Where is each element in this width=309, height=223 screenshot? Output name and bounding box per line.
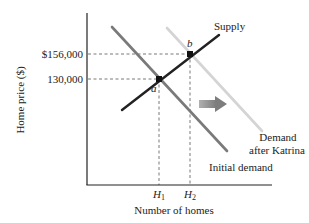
y-tick-130000: 130,000 [47, 73, 83, 85]
demand-after-label-line1: Demand [259, 131, 297, 143]
y-tick-156000: $156,000 [42, 48, 84, 60]
x-tick-h1: H1 [152, 188, 165, 202]
guide-lines [88, 54, 190, 185]
point-b-label: b [187, 37, 193, 49]
initial-demand-curve [112, 27, 227, 151]
y-axis-label: Home price ($) [14, 66, 27, 134]
supply-curve [122, 35, 219, 110]
equilibrium-point-b [187, 51, 193, 57]
x-tick-h2: H2 [183, 188, 196, 202]
demand-after-label-line2: after Katrina [249, 144, 305, 156]
equilibrium-point-a [156, 76, 162, 82]
demand-after-katrina-curve [167, 28, 262, 131]
point-a-label: a [151, 82, 157, 94]
supply-demand-diagram: a b $156,000 130,000 H1 H2 Number of hom… [0, 0, 309, 223]
supply-label: Supply [214, 20, 246, 32]
shift-right-arrow-icon [199, 96, 227, 112]
x-axis-label: Number of homes [134, 204, 213, 216]
initial-demand-label: Initial demand [209, 161, 273, 173]
